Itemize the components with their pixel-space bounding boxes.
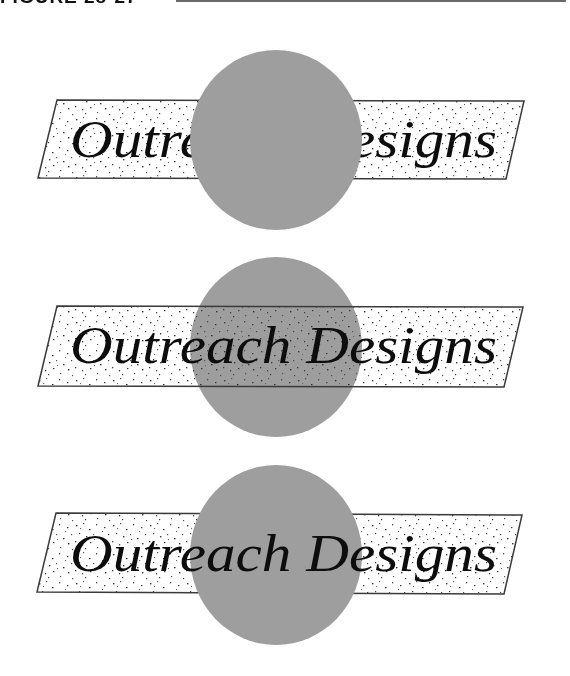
logo-text: Outreach Designs bbox=[70, 316, 497, 374]
logo-variant-2: Outreach Designs bbox=[0, 250, 570, 450]
figure-header: FIGURE 28-27 bbox=[0, 0, 570, 6]
header-rule bbox=[176, 0, 566, 2]
logo-text: Outreach Designs bbox=[70, 524, 497, 582]
logo-variant-1: Outreach Designs bbox=[0, 40, 570, 240]
logo-variant-3: Outreach Designs bbox=[0, 455, 570, 665]
gray-circle bbox=[190, 50, 362, 230]
figure-label: FIGURE 28-27 bbox=[0, 0, 138, 8]
